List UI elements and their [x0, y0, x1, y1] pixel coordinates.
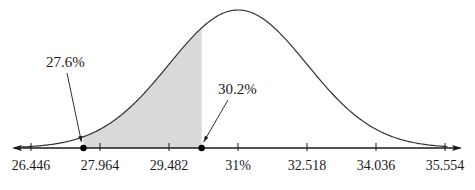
bell-curve: [20, 10, 448, 147]
tick-label: 29.482: [150, 158, 189, 173]
tick-label: 26.446: [12, 158, 51, 173]
annotation-pointer-line: [204, 100, 228, 142]
tick-label: 34.036: [357, 158, 396, 173]
tick-label: 31%: [225, 158, 251, 173]
data-point-marker: [198, 145, 204, 151]
data-point-marker: [80, 145, 86, 151]
tick-label: 32.518: [288, 158, 327, 173]
annotation-label-high: 30.2%: [218, 81, 257, 97]
tick-label: 27.964: [81, 158, 120, 173]
x-axis-tick-labels: 26.446 27.964 29.482 31% 32.518 34.036 3…: [12, 158, 465, 173]
annotation-arrowhead-icon: [204, 136, 209, 142]
annotation-pointer-line: [67, 73, 81, 142]
tick-label: 35.554: [426, 158, 465, 173]
normal-distribution-chart: 26.446 27.964 29.482 31% 32.518 34.036 3…: [0, 0, 475, 190]
annotation-label-low: 27.6%: [46, 54, 85, 70]
